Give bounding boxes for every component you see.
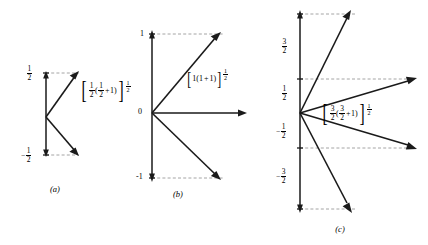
caption-a: (a) <box>35 184 75 194</box>
vector-negative-three-halves <box>300 113 347 203</box>
inner-fraction: 3 2 <box>339 105 345 121</box>
exponent-one-half: 1 2 <box>366 103 372 116</box>
magnitude-label-a: [ 1 2 ( 1 2 + 1 ) ] 1 2 <box>80 82 131 98</box>
minus-sign: − <box>21 151 25 160</box>
vector-horizontal-arrowhead <box>238 109 247 116</box>
vector-down <box>46 117 76 152</box>
fraction-one-half: 1 2 <box>281 123 287 139</box>
panel-c: 3 2 1 2 − 1 2 − 3 2 [ <box>250 5 428 220</box>
caption-c: (c) <box>320 224 360 234</box>
magnitude-label-c: [ 3 2 ( 3 2 + 1 ) ] 1 2 <box>321 105 372 121</box>
vector-up-arrowhead <box>70 71 79 80</box>
vector-diagram-figure: 1 2 − 1 2 [ 1 2 ( 1 2 + 1 ) <box>0 0 428 245</box>
vector-one-half-arrowhead <box>406 77 417 84</box>
paren-close: ) <box>355 109 358 118</box>
vector-up <box>46 76 76 118</box>
magnitude-label-b: [ 1 ( 1 + 1 ) ] 1 2 <box>186 72 229 85</box>
axis-label-c-three-halves: 3 2 <box>281 38 288 54</box>
exponent-one-half: 1 2 <box>223 68 229 81</box>
coefficient-fraction: 3 2 <box>330 105 336 121</box>
axis-arrow-up <box>43 71 49 79</box>
inner-fraction: 1 2 <box>98 82 104 98</box>
paren-close: ) <box>214 74 217 83</box>
vector-down <box>152 113 216 175</box>
minus-sign: − <box>276 127 280 136</box>
panel-a: 1 2 − 1 2 [ 1 2 ( 1 2 + 1 ) <box>0 60 140 190</box>
fraction-three-halves: 3 2 <box>282 38 288 54</box>
plus-sign: + <box>204 74 209 83</box>
fraction-three-halves: 3 2 <box>281 168 287 184</box>
fraction-one-half: 1 2 <box>26 147 32 163</box>
axis-label-b-positive-one: 1 <box>140 29 144 38</box>
axis-label-c-negative-three-halves: − 3 2 <box>276 168 287 184</box>
minus-sign: − <box>276 172 280 181</box>
fraction-one-half: 1 2 <box>27 65 33 81</box>
fraction-one-half: 1 2 <box>282 85 288 101</box>
axis-label-b-negative-one: -1 <box>136 172 143 181</box>
vector-negative-one-half-arrowhead <box>406 142 417 149</box>
vector-negative-three-halves-arrowhead <box>343 203 352 214</box>
axis-label-a-positive-half: 1 2 <box>26 65 33 81</box>
vector-up-arrowhead <box>211 32 221 41</box>
axis-label-c-one-half: 1 2 <box>281 85 288 101</box>
axis-label-c-negative-one-half: − 1 2 <box>276 123 287 139</box>
plus-sign: + <box>346 109 351 118</box>
axis-label-a-negative-half: − 1 2 <box>21 147 32 163</box>
inner-term: 1 <box>199 74 203 83</box>
coefficient-fraction: 1 2 <box>89 82 95 98</box>
vector-three-halves-arrowhead <box>342 10 351 20</box>
caption-b: (b) <box>158 189 198 199</box>
plus-sign: + <box>105 86 110 95</box>
axis-label-b-zero: 0 <box>138 107 142 116</box>
axis-arrow-down <box>43 150 49 158</box>
paren-close: ) <box>114 86 117 95</box>
